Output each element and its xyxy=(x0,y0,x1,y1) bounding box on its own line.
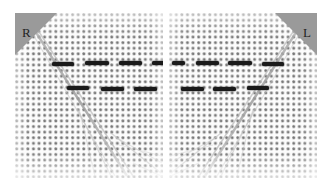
laterality-marker-left[interactable]: L xyxy=(275,13,317,55)
marker-band xyxy=(85,61,109,65)
marker-band xyxy=(101,87,124,91)
laterality-label-l: L xyxy=(303,26,311,39)
panel-right[interactable]: R xyxy=(15,13,163,178)
marker-band xyxy=(172,61,185,65)
marker-band xyxy=(152,61,163,65)
marker-band xyxy=(67,86,89,90)
panel-left[interactable]: L xyxy=(169,13,317,178)
paired-radiograph-figure: R xyxy=(0,0,330,189)
marker-band xyxy=(52,62,74,66)
marker-band xyxy=(247,86,269,90)
marker-band xyxy=(119,61,142,65)
marker-band xyxy=(181,87,204,91)
marker-band xyxy=(196,61,219,65)
marker-band xyxy=(262,62,284,66)
marker-band xyxy=(228,61,252,65)
marker-band xyxy=(213,87,236,91)
laterality-marker-right[interactable]: R xyxy=(15,13,57,55)
marker-band xyxy=(134,87,157,91)
laterality-label-r: R xyxy=(22,26,31,39)
